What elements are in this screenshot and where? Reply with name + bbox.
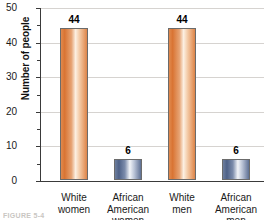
y-tick-label: 40 — [0, 37, 17, 48]
y-tick-major — [36, 112, 41, 113]
x-category-label: Whitemen — [151, 192, 213, 215]
x-category-label-line: men — [205, 215, 266, 220]
bar-value-label: 6 — [100, 145, 156, 156]
x-category-label: Whitewomen — [43, 192, 105, 215]
y-tick-label: 20 — [0, 106, 17, 117]
bar-value-label: 44 — [46, 14, 102, 25]
y-axis-title: Number of people — [20, 0, 31, 129]
bar[interactable] — [222, 159, 250, 180]
y-tick-label: 10 — [0, 140, 17, 151]
x-category-label-line: American — [97, 204, 159, 216]
y-tick-label: 0 — [0, 175, 17, 186]
x-axis-line — [40, 181, 264, 182]
y-tick-minor — [37, 60, 41, 61]
bar[interactable] — [168, 28, 196, 180]
x-category-label-line: women — [43, 204, 105, 216]
y-tick-minor — [37, 95, 41, 96]
bar-value-label: 6 — [208, 145, 264, 156]
x-category-label: AfricanAmericanwomen — [97, 192, 159, 220]
y-tick-label: 30 — [0, 71, 17, 82]
y-tick-minor — [37, 129, 41, 130]
x-category-label-line: American — [205, 204, 266, 216]
bar-chart-figure: Number of people 50403020100 446446 Whit… — [0, 0, 266, 220]
y-tick-minor — [37, 25, 41, 26]
bar[interactable] — [60, 28, 88, 180]
x-category-label-line: White — [43, 192, 105, 204]
x-category-label-line: White — [151, 192, 213, 204]
y-tick-major — [36, 146, 41, 147]
y-tick-major — [36, 77, 41, 78]
x-category-label-line: African — [205, 192, 266, 204]
gridline — [41, 8, 264, 9]
y-tick-major — [36, 181, 41, 182]
x-category-label-line: African — [97, 192, 159, 204]
bar-value-label: 44 — [154, 14, 210, 25]
x-category-label: AfricanAmericanmen — [205, 192, 266, 220]
figure-caption: FIGURE 5-4 — [3, 212, 45, 220]
plot-area: 50403020100 446446 WhitewomenAfricanAmer… — [40, 8, 264, 181]
bar[interactable] — [114, 159, 142, 180]
y-tick-major — [36, 43, 41, 44]
y-tick-major — [36, 8, 41, 9]
x-category-label-line: men — [151, 204, 213, 216]
x-category-label-line: women — [97, 215, 159, 220]
y-tick-label: 50 — [0, 2, 17, 13]
y-tick-minor — [37, 164, 41, 165]
